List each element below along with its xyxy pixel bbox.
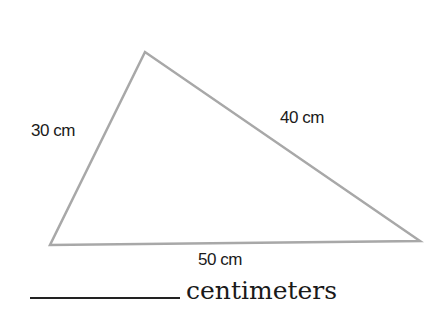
triangle	[50, 52, 420, 245]
answer-line: centimeters	[30, 276, 337, 305]
side-label-right: 40 cm	[280, 108, 324, 128]
side-label-bottom: 50 cm	[198, 250, 242, 270]
answer-blank[interactable]	[30, 279, 180, 299]
side-label-left: 30 cm	[31, 121, 75, 141]
answer-unit: centimeters	[186, 276, 337, 305]
